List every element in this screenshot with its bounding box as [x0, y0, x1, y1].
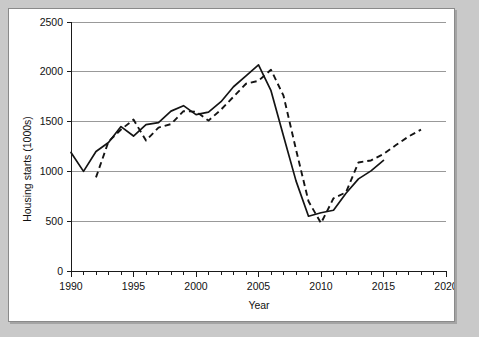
x-tick-label: 2020 — [434, 280, 454, 292]
y-tick-label: 2000 — [40, 65, 64, 77]
x-tick-label: 1990 — [59, 280, 83, 292]
x-tick-label: 2015 — [372, 280, 396, 292]
x-tick-label: 2010 — [309, 280, 333, 292]
y-tick-label: 1000 — [40, 165, 64, 177]
series-line-solid — [71, 65, 384, 216]
chart-panel: 05001000150020002500 1990199520002005201… — [8, 8, 455, 322]
y-tick-labels-group: 05001000150020002500 — [40, 16, 71, 277]
gridlines-group — [71, 22, 446, 221]
x-axis-title: Year — [248, 299, 270, 311]
series-line-dashed — [96, 70, 421, 223]
y-tick-label: 500 — [45, 215, 63, 227]
x-tick-label: 2000 — [184, 280, 208, 292]
y-tick-label: 1500 — [40, 115, 64, 127]
x-tick-label: 2005 — [247, 280, 271, 292]
y-axis-title: Housing starts (1000s) — [21, 116, 33, 222]
y-tick-label: 0 — [57, 265, 63, 277]
screenshot-root: 05001000150020002500 1990199520002005201… — [0, 0, 479, 337]
housing-starts-line-chart: 05001000150020002500 1990199520002005201… — [9, 9, 454, 321]
x-tick-labels-group: 1990199520002005201020152020 — [59, 280, 454, 292]
data-series-group — [71, 65, 421, 223]
y-tick-label: 2500 — [40, 16, 64, 28]
x-tick-label: 1995 — [122, 280, 146, 292]
